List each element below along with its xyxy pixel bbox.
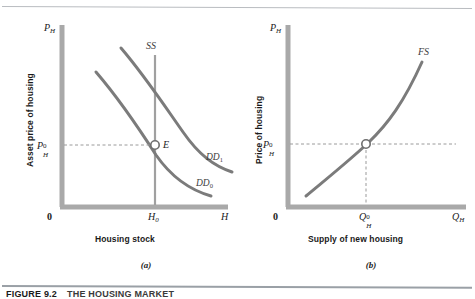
figure-container: Asset price of housing PH P0H 0 H0 H SS … — [0, 0, 475, 299]
panel-a-equilibrium-marker — [151, 141, 159, 149]
panel-b: Price of housing PH P0H 0 Q0H QH FS Supp… — [238, 0, 475, 299]
panel-b-equilibrium-marker — [362, 140, 370, 148]
panel-a-origin-label: 0 — [47, 211, 52, 222]
panel-b-origin-label: 0 — [273, 211, 278, 222]
panel-a-y-axis-symbol: PH — [44, 22, 55, 33]
panel-a-equilibrium-quantity-label: H0 — [148, 211, 159, 222]
panel-a: Asset price of housing PH P0H 0 H0 H SS … — [0, 0, 238, 299]
panel-b-fs-label: FS — [418, 46, 429, 57]
panel-a-y-axis-title: Asset price of housing — [25, 73, 35, 167]
figure-caption-text: THE HOUSING MARKET — [67, 289, 174, 299]
panel-b-y-axis-title: Price of housing — [254, 86, 264, 164]
panel-a-caption: (a) — [126, 260, 166, 270]
panel-b-fs-curve — [306, 62, 422, 196]
panel-a-dd0-label: DD0 — [196, 178, 213, 188]
panel-a-x-axis-title: Housing stock — [95, 234, 215, 244]
panel-a-dd1-label: DD1 — [206, 152, 223, 162]
panel-b-equilibrium-price-label: P0H — [263, 139, 274, 150]
panel-b-equilibrium-quantity-label: Q0H — [359, 211, 371, 222]
panel-a-ss-label: SS — [146, 40, 156, 51]
figure-caption: FIGURE 9.2THE HOUSING MARKET — [6, 289, 472, 299]
panel-b-x-axis-title: Supply of new housing — [308, 234, 448, 244]
panel-a-x-axis-symbol: H — [221, 211, 228, 222]
panel-a-equilibrium-point-label: E — [163, 139, 169, 150]
panel-b-caption: (b) — [351, 260, 391, 270]
figure-caption-number: FIGURE 9.2 — [6, 289, 57, 299]
panel-b-x-axis-symbol: QH — [452, 211, 464, 222]
panel-b-y-axis-symbol: PH — [270, 22, 281, 33]
panel-a-plot — [0, 0, 238, 260]
panel-a-equilibrium-price-label: P0H — [37, 140, 48, 151]
